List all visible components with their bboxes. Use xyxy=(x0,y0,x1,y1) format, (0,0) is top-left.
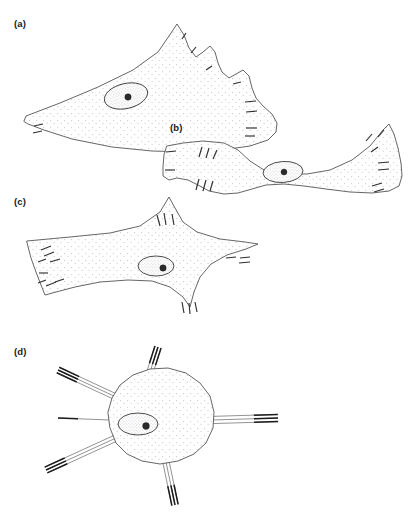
process-tip xyxy=(254,414,278,415)
panel-label-b: (b) xyxy=(170,122,183,133)
panel-label-text: (b) xyxy=(170,122,183,133)
figure-root: (a)(b)(c)(d) xyxy=(0,0,420,517)
panel-label-text: (a) xyxy=(14,18,26,29)
panel-label-a: (a) xyxy=(14,18,26,29)
panel-label-c: (c) xyxy=(14,196,26,207)
panel-label-text: (d) xyxy=(14,346,27,357)
nucleolus xyxy=(281,169,287,175)
nucleus xyxy=(138,256,174,276)
nucleus xyxy=(118,413,158,435)
cell-morphology-figure: (a)(b)(c)(d) xyxy=(0,0,420,517)
nucleolus xyxy=(160,265,166,271)
process-tip xyxy=(254,422,278,423)
process-tip xyxy=(58,418,78,419)
process-tip xyxy=(254,418,278,419)
nucleolus xyxy=(125,94,131,100)
panel-label-d: (d) xyxy=(14,346,27,357)
nucleolus xyxy=(143,423,150,430)
panel-label-text: (c) xyxy=(14,196,26,207)
